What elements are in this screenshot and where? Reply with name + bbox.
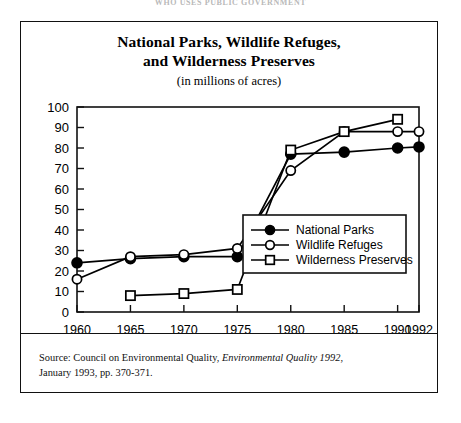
legend-label: Wilderness Preserves [296,253,413,267]
x-tick-label: 1975 [223,323,251,337]
filled-circle-marker [339,147,349,157]
x-tick-label: 1965 [117,323,145,337]
open-square-marker [179,289,188,298]
filled-circle-icon [265,225,274,234]
source-suffix: , [340,352,343,363]
open-square-marker [340,127,349,136]
source-publication-title: Environmental Quality 1992 [222,352,341,363]
y-tick-label: 10 [55,284,69,299]
open-square-marker [233,285,242,294]
filled-circle-marker [393,143,403,153]
y-tick-label: 50 [55,202,69,217]
x-axis-tick-labels: 19601965197019751980198519901992 [63,323,433,337]
x-tick-label: 1980 [277,323,305,337]
y-tick-label: 70 [55,161,69,176]
legend-label: Wildlife Refuges [296,238,383,252]
open-square-icon [266,256,275,265]
plot-area: 0102030405060708090100 19601965197019751… [21,22,439,394]
y-tick-label: 100 [47,100,69,115]
running-head: WHO USES PUBLIC GOVERNMENT [0,0,461,8]
line-chart: 0102030405060708090100 19601965197019751… [21,22,439,394]
y-tick-label: 20 [55,264,69,279]
open-circle-marker [179,250,188,259]
open-circle-marker [233,244,242,253]
y-tick-label: 90 [55,120,69,135]
x-tick-label: 1985 [330,323,358,337]
source-prefix: Source: Council on Environmental Quality… [39,352,222,363]
open-square-marker [126,291,135,300]
source-note: Source: Council on Environmental Quality… [39,351,425,380]
y-tick-label: 60 [55,182,69,197]
chart-axes [77,107,419,312]
open-circle-marker [393,127,402,136]
y-axis-tick-labels: 0102030405060708090100 [47,100,69,320]
y-tick-label: 40 [55,223,69,238]
open-circle-marker [414,127,423,136]
open-circle-marker [126,252,135,261]
legend-label: National Parks [296,223,374,237]
y-tick-label: 30 [55,243,69,258]
x-tick-label: 1960 [63,323,91,337]
open-circle-icon [266,241,275,250]
filled-circle-marker [72,258,82,268]
open-square-marker [286,145,295,154]
source-divider [21,333,437,334]
x-tick-label: 1970 [170,323,198,337]
x-tick-label: 1992 [405,323,433,337]
chart-legend: National ParksWildlife RefugesWilderness… [243,215,413,273]
y-tick-label: 0 [62,305,69,320]
open-square-marker [393,115,402,124]
figure-container: National Parks, Wildlife Refuges, and Wi… [20,21,438,393]
y-tick-label: 80 [55,141,69,156]
source-line-2: January 1993, pp. 370-371. [39,367,153,378]
open-circle-marker [72,275,81,284]
filled-circle-marker [414,142,424,152]
open-circle-marker [286,166,295,175]
